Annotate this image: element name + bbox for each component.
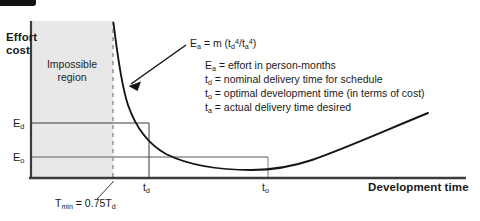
legend-item-td: td = nominal delivery time for schedule <box>205 74 383 86</box>
legend-td-sub: d <box>208 79 212 87</box>
figure-canvas: Effort cost Development time Impossible … <box>0 0 480 221</box>
legend-ta-text: = actual delivery time desired <box>212 101 351 113</box>
impossible-region-line2: region <box>57 71 86 83</box>
formula-eq: = m (t <box>201 37 231 49</box>
legend-ea-text: = effort in person-months <box>216 59 336 71</box>
tmin-tail-sub: d <box>112 203 116 211</box>
legend-ea-symbol: E <box>205 59 212 71</box>
formula-lhs-sub: a <box>197 43 201 51</box>
y-axis-title-line1: Effort <box>6 31 37 44</box>
tmin-sub: min <box>61 203 72 211</box>
y-tick-eo-sub: o <box>20 156 24 165</box>
formula-arrow <box>131 45 186 84</box>
x-tick-label-to: to <box>262 182 269 194</box>
x-tick-td-sub: d <box>146 187 150 195</box>
formula-num-sup: 4 <box>235 38 239 46</box>
legend-item-to: to = optimal development time (in terms … <box>205 88 425 100</box>
legend-item-ea: Ea = effort in person-months <box>205 60 336 72</box>
legend-item-ta: ta = actual delivery time desired <box>205 102 351 114</box>
impossible-region-shading <box>31 21 113 178</box>
legend-to-sub: o <box>208 93 212 101</box>
legend-td-text: = nominal delivery time for schedule <box>212 73 383 85</box>
formula-den-sup: 4 <box>249 38 253 46</box>
impossible-region-label: Impossible region <box>40 58 104 84</box>
legend-ta-sub: a <box>208 107 212 115</box>
y-axis-title: Effort cost <box>6 31 37 57</box>
y-axis-title-line2: cost <box>6 44 37 57</box>
tmin-eq: = 0.75T <box>73 197 112 209</box>
y-tick-ed-sub: d <box>20 122 24 131</box>
x-tick-label-td: td <box>143 182 150 194</box>
effort-formula: Ea = m (td4/ta4) <box>190 38 256 50</box>
x-axis-title: Development time <box>368 181 469 194</box>
y-tick-label-ed: Ed <box>13 117 25 129</box>
formula-arrow-head <box>129 82 142 92</box>
formula-slash: /t <box>239 37 245 49</box>
formula-close: ) <box>253 37 257 49</box>
tmin-annotation: Tmin = 0.75Td <box>55 198 116 210</box>
y-tick-label-eo: Eo <box>13 151 25 163</box>
impossible-region-line1: Impossible <box>47 58 97 70</box>
formula-lhs-main: E <box>190 37 197 49</box>
legend-to-text: = optimal development time (in terms of … <box>212 87 425 99</box>
x-tick-to-sub: o <box>265 187 269 195</box>
legend-ea-sub: a <box>212 65 216 73</box>
